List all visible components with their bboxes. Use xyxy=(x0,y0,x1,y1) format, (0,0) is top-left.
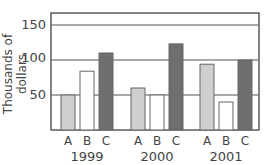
x-category-label: B xyxy=(219,134,233,148)
bar-2001-A xyxy=(200,64,214,130)
x-group-label: 2000 xyxy=(137,149,177,164)
bar-2000-A xyxy=(131,88,145,130)
x-category-label: A xyxy=(200,134,214,148)
x-category-label: B xyxy=(150,134,164,148)
bar-2001-C xyxy=(238,60,252,130)
bar-2000-C xyxy=(169,44,183,130)
x-category-label: C xyxy=(238,134,252,148)
x-category-label: A xyxy=(61,134,75,148)
bar-1999-C xyxy=(99,53,113,130)
chart: Thousands of dollars 150 100 50 ABC1999A… xyxy=(0,0,266,165)
x-category-label: A xyxy=(131,134,145,148)
x-category-label: C xyxy=(99,134,113,148)
bar-2000-B xyxy=(150,95,164,130)
x-group-label: 1999 xyxy=(67,149,107,164)
bar-2001-B xyxy=(219,102,233,130)
x-category-label: B xyxy=(80,134,94,148)
x-group-label: 2001 xyxy=(206,149,246,164)
bar-1999-A xyxy=(61,95,75,130)
bar-1999-B xyxy=(80,71,94,130)
x-category-label: C xyxy=(169,134,183,148)
